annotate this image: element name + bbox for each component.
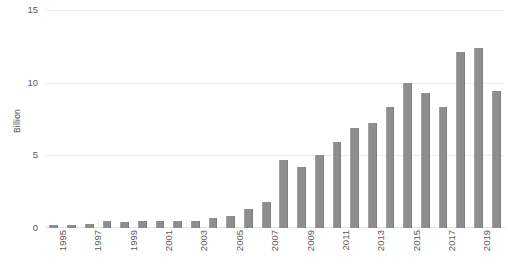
y-tick-label: 10 bbox=[14, 78, 38, 88]
x-tick-label: 2001 bbox=[164, 230, 174, 251]
bars-layer bbox=[45, 10, 505, 228]
bar[interactable] bbox=[262, 202, 271, 228]
bar[interactable] bbox=[315, 155, 324, 228]
x-tick-label: 2009 bbox=[306, 230, 316, 251]
y-tick-label: 5 bbox=[14, 151, 38, 161]
bar[interactable] bbox=[474, 48, 483, 228]
bar[interactable] bbox=[209, 218, 218, 228]
x-tick-label: 1995 bbox=[58, 230, 68, 251]
x-tick-label: 2003 bbox=[199, 230, 209, 251]
bar[interactable] bbox=[191, 221, 200, 228]
bar[interactable] bbox=[403, 83, 412, 228]
bar[interactable] bbox=[439, 107, 448, 228]
bar[interactable] bbox=[138, 221, 147, 228]
bar-chart: Billion 051015 1995199719992001200320052… bbox=[0, 0, 508, 276]
x-tick-label: 2017 bbox=[447, 230, 457, 251]
bar[interactable] bbox=[492, 91, 501, 228]
bar[interactable] bbox=[368, 123, 377, 228]
bar[interactable] bbox=[297, 167, 306, 228]
x-tick-label: 2011 bbox=[341, 230, 351, 250]
bar[interactable] bbox=[173, 221, 182, 228]
bar[interactable] bbox=[120, 222, 129, 228]
bar[interactable] bbox=[226, 216, 235, 228]
bar[interactable] bbox=[103, 221, 112, 228]
plot-area bbox=[45, 10, 505, 228]
bar[interactable] bbox=[421, 93, 430, 228]
x-tick-label: 2019 bbox=[482, 230, 492, 251]
bar[interactable] bbox=[49, 225, 58, 228]
x-tick-label: 2013 bbox=[376, 230, 386, 251]
bar[interactable] bbox=[67, 225, 76, 228]
x-tick-label: 2005 bbox=[235, 230, 245, 251]
y-tick-label: 15 bbox=[14, 5, 38, 15]
x-tick-label: 1997 bbox=[93, 230, 103, 251]
bar[interactable] bbox=[386, 107, 395, 228]
x-tick-label: 1999 bbox=[129, 230, 139, 251]
bar[interactable] bbox=[244, 209, 253, 228]
bar[interactable] bbox=[279, 160, 288, 228]
x-axis-tick-labels: 1995199719992001200320052007200920112013… bbox=[45, 230, 505, 276]
y-axis-tick-labels: 051015 bbox=[10, 0, 38, 276]
bar[interactable] bbox=[156, 221, 165, 228]
x-tick-label: 2007 bbox=[270, 230, 280, 251]
bar[interactable] bbox=[333, 142, 342, 228]
bar[interactable] bbox=[85, 224, 94, 228]
y-tick-label: 0 bbox=[14, 223, 38, 233]
bar[interactable] bbox=[456, 52, 465, 228]
x-tick-label: 2015 bbox=[412, 230, 422, 251]
bar[interactable] bbox=[350, 128, 359, 228]
